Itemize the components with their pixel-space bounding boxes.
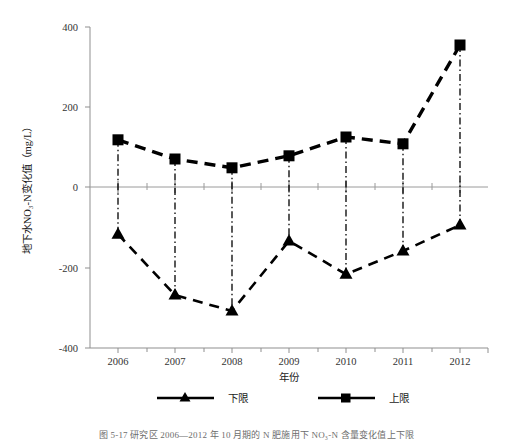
figure-caption: 图 5-17 研究区 2006—2012 年 10 月期的 N 肥施用下 NO₃… [0, 428, 513, 441]
y-axis-title: 地下水NO₃-N变化值（mg/L） [21, 122, 33, 255]
y-tick-label: -200 [59, 263, 78, 274]
y-axis: 400 200 0 -200 -400 [59, 22, 90, 354]
x-tick-label: 2006 [108, 356, 129, 367]
data-point-triangle [454, 218, 467, 230]
x-tick-label: 2011 [393, 356, 414, 367]
y-tick-label: -400 [59, 343, 78, 354]
legend-label-upper: 上限 [389, 393, 410, 404]
data-point-square [113, 134, 124, 145]
droplines-group [118, 45, 460, 311]
legend-item-upper[interactable]: 上限 [318, 393, 410, 404]
x-tick-label: 2012 [450, 356, 471, 367]
square-icon [341, 394, 351, 403]
x-axis-title: 年份 [279, 371, 300, 383]
data-point-triangle [112, 227, 125, 239]
legend-label-lower: 下限 [228, 393, 249, 404]
data-point-square [284, 150, 295, 161]
series-upper-markers [113, 40, 466, 174]
figure-container: 400 200 0 -200 -400 [0, 0, 513, 442]
data-point-square [455, 40, 466, 51]
y-tick-label: 400 [62, 22, 78, 33]
legend: 下限 上限 [157, 392, 410, 404]
x-tick-label: 2009 [279, 356, 300, 367]
x-tick-label: 2008 [222, 356, 243, 367]
data-point-square [398, 138, 409, 149]
legend-item-lower[interactable]: 下限 [157, 392, 249, 404]
x-axis: 2006 2007 2008 2009 2010 2011 2012 [108, 348, 489, 367]
series-upper-line [118, 45, 460, 168]
data-point-square [170, 154, 181, 165]
y-tick-label: 200 [62, 102, 78, 113]
data-point-square [341, 132, 352, 143]
data-point-triangle [283, 234, 296, 246]
chart-svg: 400 200 0 -200 -400 [0, 0, 513, 442]
y-tick-label: 0 [73, 182, 78, 193]
x-tick-label: 2010 [336, 356, 357, 367]
x-tick-label: 2007 [165, 356, 186, 367]
data-point-square [227, 162, 238, 173]
